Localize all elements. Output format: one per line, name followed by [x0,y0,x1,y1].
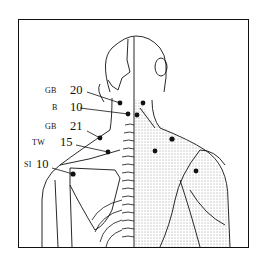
label-gb20-meridian: GB [45,87,57,95]
label-gb21-meridian: GB [45,123,57,131]
left-scapula [70,168,120,230]
anatomy-illustration [0,0,269,265]
label-gb21-number: 21 [70,120,83,133]
left-upper-arm [55,180,72,247]
point-gb21-left [98,136,103,141]
left-shoulder-outline [42,130,110,247]
head-outline [105,36,166,92]
point-tw15-left [106,150,111,155]
left-clavicle [60,150,120,165]
ribs [92,200,122,247]
point-si10-right [194,169,199,174]
point-gb20-right [141,101,146,106]
label-gb20-number: 20 [70,84,83,97]
neck-left [110,98,112,130]
point-tw15-right [153,149,158,154]
label-b10-number: 10 [70,101,83,114]
label-si10-number: 10 [36,158,49,171]
point-gb20-left [118,101,123,106]
leader-lines [52,92,128,174]
left-ear [99,84,104,102]
right-ear [155,58,167,76]
point-b10-left [126,112,131,117]
label-si10-meridian: SI [24,161,32,169]
label-b10-meridian: B [52,104,58,112]
back-muscle-shading [134,100,230,247]
label-tw15-meridian: TW [32,139,45,147]
label-tw15-number: 15 [60,136,73,149]
point-gb21-right [169,136,174,141]
point-b10-right [135,113,140,118]
spine-vertebrae [122,124,134,237]
point-si10-left [70,171,75,176]
skull-suture [108,39,130,90]
